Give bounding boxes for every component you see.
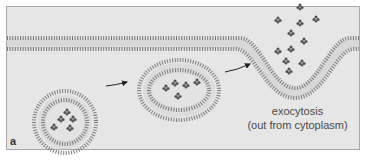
caption: exocytosis (out from cytoplasm): [240, 104, 355, 132]
caption-subtitle: (out from cytoplasm): [240, 118, 355, 132]
exocytosis-diagram: [0, 0, 367, 160]
caption-title: exocytosis: [240, 104, 355, 118]
panel-label: a: [10, 135, 16, 147]
